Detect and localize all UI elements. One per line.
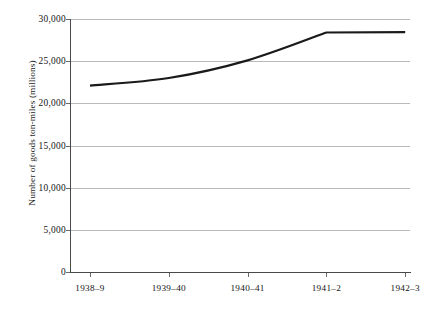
y-tick-label-20000: 20,000 [4,98,66,108]
y-tick-label-25000: 25,000 [4,56,66,66]
x-tick-label-3: 1941–2 [312,283,341,293]
x-tick-label-4: 1942–3 [391,283,420,293]
x-tick-mark-1 [169,273,170,277]
x-tick-mark-3 [326,273,327,277]
data-series-line [70,19,410,273]
x-tick-label-0: 1938–9 [75,283,104,293]
x-tick-label-2: 1940–41 [230,283,264,293]
y-tick-label-15000: 15,000 [4,141,66,151]
chart-figure: Number of goods ton-miles (millions) 05,… [0,0,429,315]
y-tick-label-5000: 5,000 [4,225,66,235]
y-tick-label-30000: 30,000 [4,14,66,24]
x-tick-mark-0 [90,273,91,277]
x-tick-mark-2 [248,273,249,277]
plot-area: 1938–91939–401940–411941–21942–3 [70,19,410,272]
series-path-goods-ton-miles [90,32,405,86]
x-tick-mark-4 [405,273,406,277]
y-tick-label-10000: 10,000 [4,183,66,193]
x-tick-label-1: 1939–40 [152,283,186,293]
y-axis-tick-labels: 05,00010,00015,00020,00025,00030,000 [0,19,66,273]
y-tick-label-0: 0 [4,267,66,277]
